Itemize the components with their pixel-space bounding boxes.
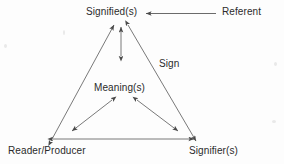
node-label-referent: Referent	[222, 6, 261, 17]
edge-meaning-to-signifier	[137, 100, 178, 131]
diagram-canvas: Signified(s) Referent Reader/Producer Si…	[0, 0, 284, 164]
node-label-meaning: Meaning(s)	[94, 82, 145, 93]
edge-label-sign: Sign	[159, 58, 179, 69]
node-label-signifier: Signifier(s)	[189, 145, 238, 156]
scan-speck	[63, 30, 65, 35]
edge-meaning-to-reader	[72, 100, 112, 131]
node-label-signified: Signified(s)	[86, 6, 137, 17]
scan-speck	[274, 62, 277, 66]
scan-speck	[4, 44, 7, 48]
scan-speck	[272, 120, 276, 123]
node-label-reader-producer: Reader/Producer	[8, 145, 86, 156]
